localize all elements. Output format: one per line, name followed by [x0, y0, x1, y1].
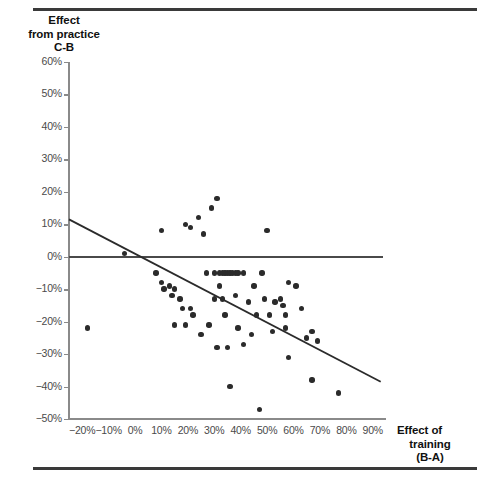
bottom-divider-rule	[33, 467, 477, 470]
x-axis-title: Effect of training (B-A)	[397, 424, 483, 465]
chart-page: Effect from practice C-B Effect of train…	[0, 0, 484, 483]
scatter-point	[280, 303, 285, 308]
y-axis-title: Effect from practice C-B	[4, 14, 124, 55]
scatter-point	[190, 312, 195, 317]
scatter-point	[309, 377, 314, 382]
scatter-point	[217, 283, 222, 288]
y-axis-title-line-1: Effect	[4, 14, 124, 28]
scatter-point	[161, 286, 166, 291]
scatter-point	[214, 196, 219, 201]
scatter-point	[214, 345, 219, 350]
scatter-point	[235, 270, 240, 275]
scatter-point	[220, 296, 225, 301]
scatter-point	[309, 329, 314, 334]
y-tick-mark	[64, 419, 69, 420]
y-tick-label: 40%	[18, 120, 62, 132]
x-axis-title-line-1: Effect of	[397, 424, 442, 436]
trend-line	[69, 62, 386, 419]
y-tick-label: 20%	[18, 185, 62, 197]
scatter-point	[315, 338, 320, 343]
scatter-point	[183, 322, 188, 327]
scatter-point	[153, 270, 158, 275]
scatter-point	[209, 205, 214, 210]
scatter-point	[85, 325, 90, 330]
x-tick-label: 90%	[353, 424, 393, 436]
scatter-point	[278, 296, 283, 301]
scatter-point	[251, 283, 256, 288]
scatter-point	[169, 293, 174, 298]
y-tick-label: 50%	[18, 87, 62, 99]
scatter-point	[254, 312, 259, 317]
scatter-point	[235, 325, 240, 330]
scatter-point	[304, 335, 309, 340]
y-tick-label: −50%	[18, 412, 62, 424]
y-tick-label: −30%	[18, 347, 62, 359]
scatter-point	[336, 390, 341, 395]
y-tick-label: 10%	[18, 217, 62, 229]
y-tick-label: 30%	[18, 152, 62, 164]
scatter-point	[241, 342, 246, 347]
plot-area	[69, 62, 386, 419]
y-tick-label: 0%	[18, 250, 62, 262]
scatter-point	[293, 283, 298, 288]
scatter-point	[241, 270, 246, 275]
scatter-point	[222, 312, 227, 317]
x-axis-title-line-2: training	[397, 438, 463, 452]
scatter-point	[177, 296, 182, 301]
y-tick-label: 60%	[18, 55, 62, 67]
scatter-point	[257, 407, 262, 412]
top-divider-rule	[33, 8, 477, 11]
y-axis-title-line-3: C-B	[4, 41, 124, 55]
scatter-point	[262, 296, 267, 301]
scatter-point	[259, 270, 264, 275]
scatter-point	[204, 270, 209, 275]
scatter-point	[286, 355, 291, 360]
scatter-point	[272, 299, 277, 304]
scatter-point	[206, 322, 211, 327]
y-tick-label: −10%	[18, 282, 62, 294]
scatter-point	[198, 332, 203, 337]
y-tick-label: −20%	[18, 315, 62, 327]
scatter-point	[212, 296, 217, 301]
y-axis-title-line-2: from practice	[4, 28, 124, 42]
x-axis-title-line-3: (B-A)	[397, 451, 463, 465]
scatter-point	[172, 322, 177, 327]
scatter-point	[227, 384, 232, 389]
y-tick-label: −40%	[18, 380, 62, 392]
